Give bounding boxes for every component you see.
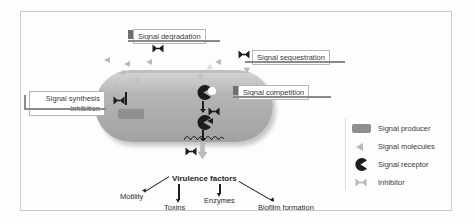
signal-producer-icon bbox=[352, 122, 372, 135]
callout-signal-synthesis-inhibition: Signal synthesis inhibition bbox=[29, 91, 105, 116]
callout-leader-bar bbox=[24, 95, 26, 110]
callout-leader-bar bbox=[24, 108, 106, 110]
inhibitor-icon bbox=[152, 44, 164, 53]
legend-item-signal-molecules: Signal molecules bbox=[352, 140, 452, 155]
virulence-leaf-motility: Motility bbox=[120, 192, 143, 201]
virulence-leaf-biofilm-formation: Biofilm formation bbox=[258, 203, 314, 212]
legend-item-signal-producer: Signal producer bbox=[352, 122, 452, 137]
signal-molecule-icon bbox=[197, 73, 204, 80]
signal-molecule-icon bbox=[146, 59, 152, 65]
legend-label: Signal producer bbox=[378, 124, 431, 133]
legend-item-inhibitor: Inhibitor bbox=[352, 176, 452, 191]
inhibitor-icon bbox=[185, 147, 197, 156]
quorum-sensing-diagram: Signal degradation Signal sequestration … bbox=[0, 0, 475, 224]
callout-leader-bar bbox=[128, 40, 220, 42]
signal-molecule-icon bbox=[104, 57, 110, 63]
callout-leader-bar bbox=[233, 96, 331, 98]
virulence-factors-title: Virulence factors bbox=[172, 174, 237, 183]
legend: Signal producer Signal molecules Signal … bbox=[352, 122, 452, 194]
legend-label: Signal molecules bbox=[378, 142, 435, 151]
dna-squiggle bbox=[183, 129, 225, 141]
signal-receptor-icon bbox=[352, 158, 372, 171]
signal-producer-shape bbox=[118, 108, 144, 119]
virulence-leaf-toxins: Toxins bbox=[164, 203, 185, 212]
callout-label-line1: Signal synthesis bbox=[34, 94, 100, 104]
branch-line-toxins bbox=[178, 184, 180, 200]
virulence-leaf-enzymes: Enzymes bbox=[204, 196, 235, 205]
legend-label: Inhibitor bbox=[378, 178, 405, 187]
signal-molecule-icon bbox=[207, 118, 213, 124]
virulence-output-arrow bbox=[198, 141, 207, 159]
callout-leader-bar bbox=[245, 61, 345, 63]
signal-molecule-icon bbox=[352, 140, 372, 153]
signal-molecule-icon bbox=[215, 59, 221, 65]
legend-label: Signal receptor bbox=[378, 160, 428, 169]
legend-item-signal-receptor: Signal receptor bbox=[352, 158, 452, 173]
bound-signal-molecule bbox=[208, 87, 216, 95]
synthesis-arrow bbox=[125, 92, 127, 105]
inhibitor-icon bbox=[352, 176, 372, 189]
legend-divider bbox=[345, 118, 346, 190]
inhibitor-icon bbox=[238, 50, 250, 59]
inhibitor-icon bbox=[113, 96, 125, 105]
signal-molecule-icon bbox=[124, 61, 130, 67]
receptor-link-arrowhead bbox=[200, 109, 206, 113]
